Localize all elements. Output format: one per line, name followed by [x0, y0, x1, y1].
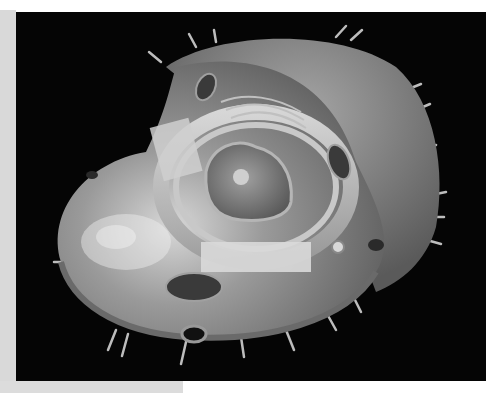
membrane-pore [368, 239, 384, 251]
cell-illustration [16, 12, 486, 381]
membrane-pore [86, 171, 98, 179]
mitochondrion [166, 273, 222, 301]
cell-image-frame [16, 12, 486, 381]
vesicle [332, 241, 344, 253]
left-border-strip [0, 10, 16, 393]
bottom-border-strip [0, 381, 183, 393]
nucleolus [233, 169, 249, 185]
membrane-pore [182, 326, 206, 342]
